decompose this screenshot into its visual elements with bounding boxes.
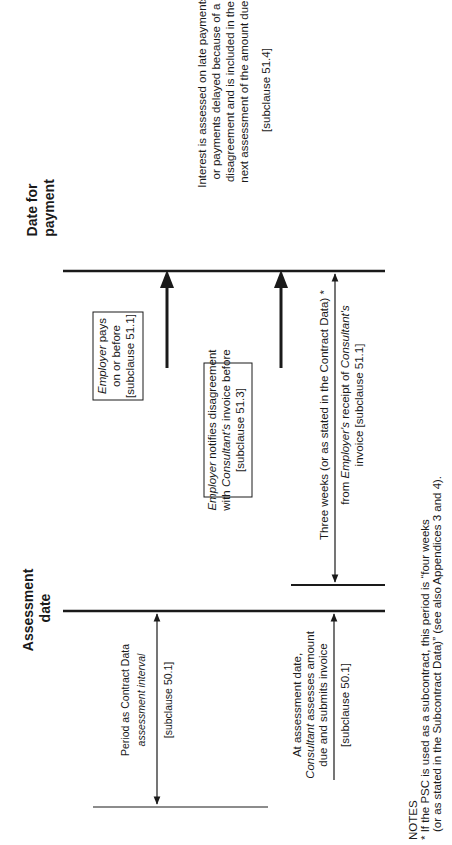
- assessment-date-milestone: Assessment date: [20, 565, 385, 651]
- assessment-date-label: Assessment date: [20, 565, 53, 651]
- svg-text:Period as Contract Data: Period as Contract Data: [119, 644, 131, 756]
- employer-pays-box: Employer pays on or before [subclause 51…: [93, 312, 143, 400]
- svg-text:(or as stated in the Subcontra: (or as stated in the Subcontract Data)” …: [431, 476, 443, 832]
- svg-text:At assessment date,: At assessment date,: [291, 653, 303, 757]
- interest-clause: [subclause 51.4]: [260, 48, 272, 132]
- svg-text:on or before: on or before: [110, 325, 122, 387]
- svg-text:* If the PSC is used as a subc: * If the PSC is used as a subcontract, t…: [419, 519, 431, 840]
- three-weeks-interval: Three weeks (or as stated in the Contrac…: [318, 274, 365, 582]
- svg-text:Three weeks (or as stated in t: Three weeks (or as stated in the Contrac…: [318, 290, 330, 540]
- payment-arrow: [160, 270, 174, 368]
- disagreement-box: Employer notifies disagreement with Cons…: [204, 349, 252, 512]
- payment-timeline-diagram: Date for payment Assessment date Interes…: [0, 0, 452, 845]
- assessment-interval: Period as Contract Data assessment inter…: [119, 614, 174, 804]
- svg-text:Interest is assessed on late p: Interest is assessed on late payments or…: [196, 0, 250, 188]
- svg-text:Employer pays: Employer pays: [96, 318, 108, 394]
- svg-text:due and submits invoice: due and submits invoice: [317, 643, 329, 766]
- svg-text:[subclause 51.1]: [subclause 51.1]: [124, 314, 136, 398]
- svg-text:Consultant assesses amount: Consultant assesses amount: [304, 630, 316, 778]
- consultant-assesses: At assessment date, Consultant assesses …: [291, 614, 351, 780]
- svg-text:Employer notifies disagreement: Employer notifies disagreement: [206, 349, 218, 511]
- svg-text:[subclause 51.3]: [subclause 51.3]: [234, 388, 246, 472]
- svg-text:from Employer's receipt of Con: from Employer's receipt of Consultant's: [339, 305, 351, 505]
- svg-text:NOTES: NOTES: [407, 800, 419, 840]
- interest-note: Interest is assessed on late payments or…: [196, 0, 272, 188]
- date-for-payment-label: Date for payment: [24, 179, 57, 237]
- svg-text:[subclause 50.1]: [subclause 50.1]: [339, 663, 351, 747]
- date-for-payment-milestone: Date for payment: [24, 179, 385, 271]
- svg-text:invoice [subclause 51.1]: invoice [subclause 51.1]: [353, 344, 365, 467]
- disagreement-arrow: [274, 270, 288, 368]
- svg-text:[subclause 50.1]: [subclause 50.1]: [162, 662, 174, 739]
- notes: NOTES * If the PSC is used as a subcontr…: [407, 476, 443, 840]
- svg-text:assessment interval: assessment interval: [135, 653, 147, 746]
- svg-text:with Consultant's invoice befo: with Consultant's invoice before: [220, 349, 232, 511]
